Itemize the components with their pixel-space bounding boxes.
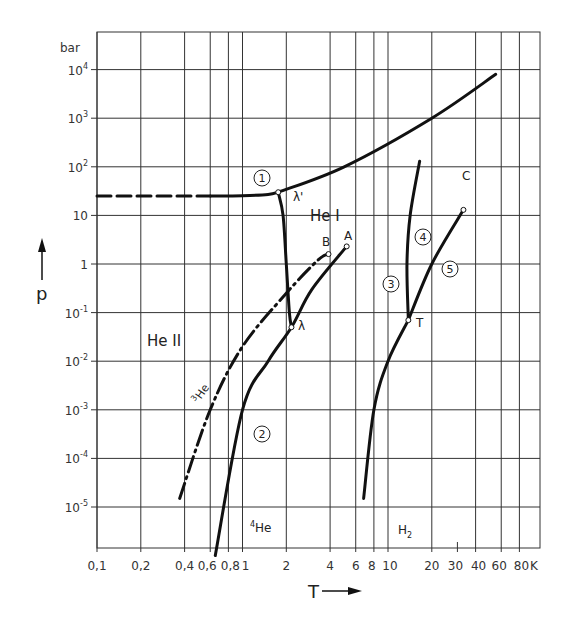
- x-tick-label: 0,1: [87, 559, 106, 573]
- x-tick-label: 4: [326, 559, 334, 573]
- x-unit-label: K: [530, 559, 539, 573]
- svg-text:3He: 3He: [189, 381, 212, 406]
- point-marker: [406, 318, 411, 323]
- phase-label-he2: He II: [147, 332, 181, 350]
- grid: [91, 32, 540, 552]
- y-tick-label: 104: [68, 62, 88, 78]
- x-tick-label: 6: [352, 559, 360, 573]
- point-marker: [344, 244, 349, 249]
- x-tick-label: 0,8: [221, 559, 240, 573]
- label-3he: 3He: [189, 381, 212, 406]
- y-tick-label: 10-1: [65, 305, 88, 321]
- y-tick-label: 10-4: [65, 450, 88, 466]
- y-tick-label: 10: [73, 209, 88, 223]
- label-lambda-prime: λ': [293, 190, 303, 204]
- curve: [210, 192, 278, 196]
- curve: [278, 192, 291, 327]
- y-tick-label: 10-5: [65, 499, 88, 515]
- x-axis-arrow: [322, 587, 362, 595]
- svg-text:1: 1: [259, 172, 266, 185]
- x-tick-label: 80: [514, 559, 529, 573]
- point-marker: [276, 190, 281, 195]
- x-tick-label: 0,4: [175, 559, 194, 573]
- x-tick-label: 2: [282, 559, 290, 573]
- y-axis-label: p: [36, 283, 47, 304]
- svg-text:5: 5: [447, 263, 454, 276]
- x-tick-label: 40: [471, 559, 486, 573]
- plot-frame: [97, 32, 540, 548]
- label-B: B: [322, 235, 330, 249]
- y-tick-label: 10-2: [65, 353, 88, 369]
- y-tick-label: 1: [80, 258, 88, 272]
- circle-label-2: 2: [254, 426, 270, 442]
- phase-diagram: 0,10,20,40,60,812468102030406080 1041031…: [0, 0, 576, 620]
- x-tick-label: 20: [424, 559, 439, 573]
- x-tick-label: 1: [242, 559, 250, 573]
- x-tick-label: 0,2: [131, 559, 150, 573]
- y-tick-label: 103: [68, 110, 88, 126]
- circle-label-4: 4: [415, 229, 431, 245]
- point-marker: [461, 207, 466, 212]
- point-marker: [289, 325, 294, 330]
- curve: [364, 320, 409, 498]
- x-tick-label: 8: [368, 559, 376, 573]
- curve: [180, 254, 329, 498]
- x-tick-label: 30: [448, 559, 463, 573]
- x-tick-label: 0,6: [198, 559, 217, 573]
- x-axis-label: T: [307, 581, 320, 602]
- label-4he: 4He: [250, 520, 272, 535]
- x-tick-labels: 0,10,20,40,60,812468102030406080: [87, 559, 529, 573]
- label-T: T: [415, 316, 424, 330]
- y-tick-labels: 10410310210110-110-210-310-410-5: [65, 62, 88, 515]
- svg-text:4: 4: [420, 231, 427, 244]
- svg-text:3: 3: [388, 278, 395, 291]
- circle-label-1: 1: [254, 170, 270, 186]
- label-A: A: [344, 229, 353, 243]
- x-tick-label: 60: [492, 559, 507, 573]
- label-lambda: λ: [298, 319, 305, 333]
- y-tick-label: 10-3: [65, 402, 88, 418]
- label-C: C: [462, 169, 470, 183]
- y-tick-label: 102: [68, 159, 88, 175]
- circle-label-5: 5: [442, 261, 458, 277]
- circle-label-3: 3: [383, 276, 399, 292]
- svg-text:2: 2: [259, 428, 266, 441]
- curves: [97, 74, 496, 555]
- phase-label-he1: He I: [310, 207, 340, 225]
- label-h2: H2: [398, 523, 412, 540]
- x-tick-label: 10: [382, 559, 397, 573]
- curve: [215, 246, 346, 555]
- point-marker: [326, 252, 331, 257]
- y-unit-label: bar: [60, 41, 80, 55]
- point-markers: [276, 190, 466, 330]
- y-axis-arrow: [38, 238, 46, 280]
